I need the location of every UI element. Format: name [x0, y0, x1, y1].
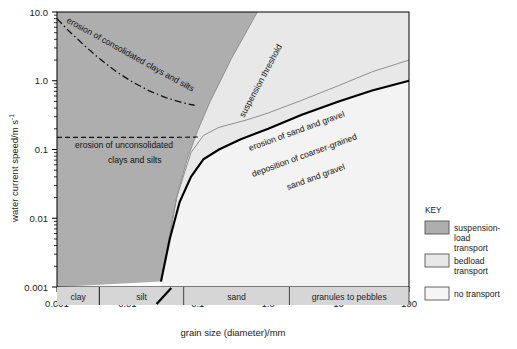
y-tick-label: 0.1	[35, 144, 48, 155]
key-swatch-2	[425, 287, 449, 300]
key-label-1: bedload	[454, 256, 485, 266]
x-axis-title: grain size (diameter)/mm	[180, 327, 285, 338]
key-label-2: no transport	[454, 289, 500, 299]
key-label-0: load	[454, 233, 470, 243]
annotation-2: clays and silts	[108, 155, 162, 165]
key-label-1: transport	[454, 266, 489, 276]
y-axis-title: water current speed/m s-1	[8, 114, 20, 223]
y-tick-label: 1.0	[35, 75, 48, 86]
key-swatch-0	[425, 221, 449, 234]
category-label-silt: silt	[136, 292, 147, 302]
key-label-0: suspension-	[454, 223, 500, 233]
y-tick-label: 0.001	[24, 282, 48, 293]
category-label-clay: clay	[71, 292, 87, 302]
category-label-granules-to-pebbles: granules to pebbles	[312, 292, 387, 302]
chart-canvas: 0.0010.010.11.01010010.01.00.10.010.001c…	[0, 0, 517, 349]
category-label-sand: sand	[227, 292, 246, 302]
y-tick-label: 10.0	[30, 7, 49, 18]
hjulstrom-diagram: 0.0010.010.11.01010010.01.00.10.010.001c…	[0, 0, 517, 349]
key-swatch-1	[425, 254, 449, 267]
annotation-1: erosion of unconsolidated	[75, 140, 173, 150]
key-title: KEY	[425, 206, 442, 215]
key-label-0: transport	[454, 243, 489, 253]
y-tick-label: 0.01	[30, 213, 49, 224]
